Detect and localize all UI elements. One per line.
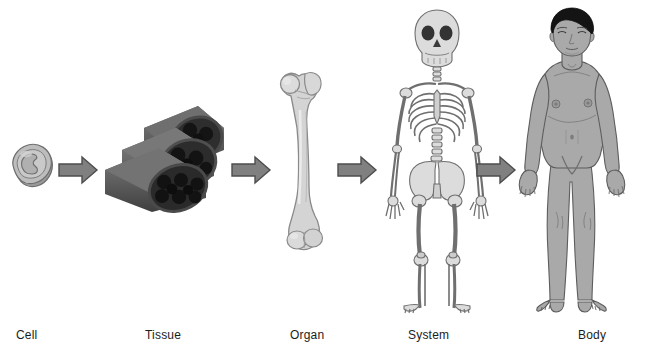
arrow-tissue-to-organ <box>231 155 271 185</box>
skull-part <box>415 10 459 67</box>
right-arrow-icon <box>337 155 377 185</box>
arrow-organ-to-system <box>337 155 377 185</box>
leg-bones-part <box>404 204 470 313</box>
right-arrow-icon <box>58 155 98 185</box>
skeleton-icon <box>384 6 490 314</box>
label-organ: Organ <box>290 328 324 342</box>
right-arrow-icon <box>231 155 271 185</box>
stage-body-figure <box>512 6 632 316</box>
stage-system-figure <box>384 6 490 314</box>
arrow-system-to-body <box>476 155 516 185</box>
right-arrow-icon <box>476 155 516 185</box>
stage-cell-figure <box>8 142 58 194</box>
cervical-spine-part <box>433 67 441 81</box>
label-cell: Cell <box>16 328 37 342</box>
arrow-cell-to-tissue <box>58 155 98 185</box>
stage-organ-figure <box>275 62 335 258</box>
body-legs-part <box>537 156 607 312</box>
stage-tissue-figure <box>102 98 232 214</box>
label-body: Body <box>578 328 606 342</box>
human-body-icon <box>512 6 632 316</box>
lumbar-spine-part <box>431 128 442 161</box>
muscle-fiber-bundle-icon <box>102 98 232 214</box>
pelvis-part <box>410 162 465 207</box>
label-system: System <box>408 328 449 342</box>
organization-levels-diagram: Cell Tissue Organ System Body <box>0 0 664 349</box>
body-head-part <box>550 8 594 56</box>
label-tissue: Tissue <box>145 328 181 342</box>
body-torso-part <box>538 60 606 174</box>
cell-blob-icon <box>8 142 58 194</box>
ribcage-part <box>409 90 465 142</box>
femur-bone-icon <box>275 62 335 258</box>
